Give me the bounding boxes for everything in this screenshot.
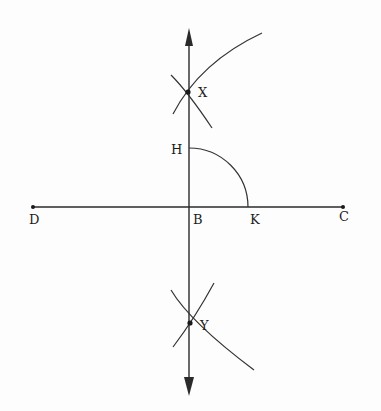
arc-y-2 bbox=[173, 283, 214, 347]
label-y: Y bbox=[199, 318, 209, 333]
label-b: B bbox=[193, 212, 203, 227]
arrow-down-icon bbox=[184, 377, 194, 396]
label-c: C bbox=[339, 209, 349, 224]
point-y bbox=[187, 320, 192, 325]
point-d bbox=[31, 205, 35, 209]
construction-diagram: X H B K D C Y bbox=[0, 0, 381, 411]
label-x: X bbox=[198, 85, 208, 100]
arc-y-1 bbox=[171, 290, 254, 370]
point-x bbox=[185, 89, 190, 94]
label-d: D bbox=[29, 212, 39, 227]
arc-hk bbox=[189, 148, 248, 207]
arc-x-1 bbox=[171, 75, 212, 128]
label-k: K bbox=[250, 212, 260, 227]
arrow-up-icon bbox=[185, 28, 193, 46]
label-h: H bbox=[171, 142, 182, 157]
